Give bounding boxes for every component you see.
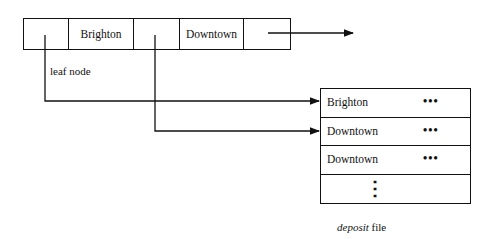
pointer-arrows bbox=[0, 0, 489, 239]
pointer-arrow-brighton bbox=[45, 35, 319, 101]
pointer-arrow-downtown bbox=[155, 35, 319, 131]
